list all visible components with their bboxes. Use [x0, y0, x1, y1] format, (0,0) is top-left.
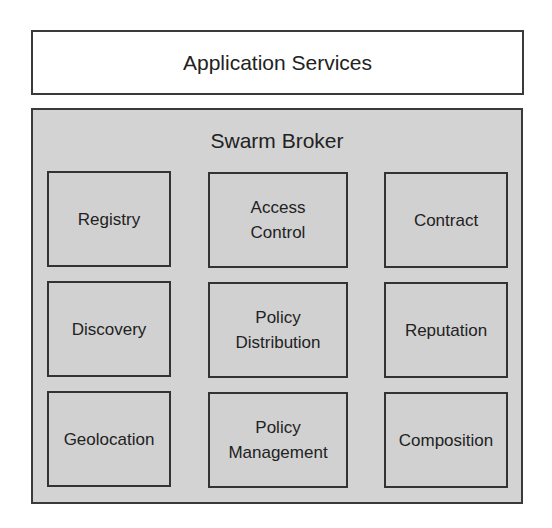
module-contract: Contract	[384, 172, 508, 268]
swarm-broker-container: Swarm Broker Registry Access Control Con…	[31, 108, 523, 504]
swarm-broker-title: Swarm Broker	[33, 129, 521, 153]
module-discovery: Discovery	[47, 281, 171, 377]
application-services-label: Application Services	[183, 51, 372, 75]
module-reputation: Reputation	[384, 282, 508, 378]
module-registry: Registry	[47, 171, 171, 267]
module-label: Reputation	[405, 318, 487, 343]
module-label: Contract	[414, 208, 478, 233]
module-label: Policy Management	[228, 415, 327, 465]
module-label: Geolocation	[64, 427, 155, 452]
application-services-layer: Application Services	[31, 30, 524, 95]
module-policy-distribution: Policy Distribution	[208, 282, 348, 378]
module-label: Policy Distribution	[235, 305, 320, 355]
module-access-control: Access Control	[208, 172, 348, 268]
module-geolocation: Geolocation	[47, 391, 171, 487]
module-policy-management: Policy Management	[208, 392, 348, 488]
module-label: Access Control	[251, 195, 306, 245]
module-composition: Composition	[384, 392, 508, 488]
module-label: Discovery	[72, 317, 147, 342]
module-label: Registry	[78, 207, 140, 232]
module-label: Composition	[399, 428, 494, 453]
